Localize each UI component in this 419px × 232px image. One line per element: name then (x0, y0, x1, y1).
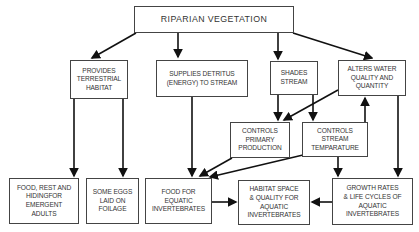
node-controls-primary-production: CONTROLS PRIMARY PRODUCTION (230, 122, 290, 158)
node-controls-stream-temperature: CONTROLS STREAM TEMPARATURE (302, 122, 368, 157)
node-shades-stream: SHADES STREAM (270, 61, 318, 95)
node-some-eggs: SOME EGGS LAID ON FOILAGE (86, 178, 139, 224)
node-alters-water-quality: ALTERS WATER QUALITY AND QUANTITY (338, 60, 406, 96)
node-supplies-detritus: SUPPLIES DETRITUS (ENERGY) TO STREAM (156, 60, 248, 97)
node-food-for-invertebrates: FOOD FOR EQUATIC INVERTEBRATES (145, 178, 212, 224)
node-habitat-space-quality: HABITAT SPACE & QUALITY FOR AQUATIC INVE… (238, 180, 310, 225)
node-food-rest-hiding: FOOD, REST AND HIDINGFOR EMERGENT ADULTS (9, 178, 79, 224)
node-provides-terrestrial-habitat: PROVIDES TERRESTRIAL HABITAT (70, 60, 128, 99)
node-riparian-vegetation: RIPARIAN VEGETATION (134, 6, 294, 33)
node-growth-rates-life-cycles: GROWTH RATES & LIFE CYCLES OF AQUATIC IN… (332, 178, 413, 225)
